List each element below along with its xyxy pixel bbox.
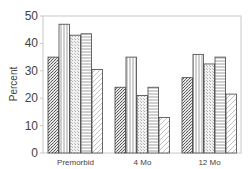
bar	[204, 64, 215, 153]
y-tick-label: 30	[25, 64, 39, 78]
y-axis-label: Percent	[8, 67, 19, 102]
y-axis: 01020304050	[25, 9, 43, 160]
x-category-label: 4 Mo	[134, 158, 152, 167]
x-category-label: 12 Mo	[198, 158, 221, 167]
bar	[59, 24, 70, 153]
bar	[193, 54, 204, 153]
bar	[126, 57, 137, 153]
bar	[92, 69, 103, 153]
y-tick-label: 50	[25, 9, 39, 23]
bar-group	[48, 24, 103, 153]
y-tick-label: 20	[25, 91, 39, 105]
y-tick-label: 10	[25, 119, 39, 133]
x-axis: Premorbid4 Mo12 Mo	[57, 158, 221, 167]
bar-group	[182, 54, 237, 153]
bar	[48, 57, 59, 153]
bar	[182, 78, 193, 153]
bar	[159, 117, 170, 153]
bar-group	[115, 57, 170, 153]
x-category-label: Premorbid	[57, 158, 94, 167]
y-tick-label: 40	[25, 36, 39, 50]
bar	[115, 87, 126, 153]
bar	[215, 57, 226, 153]
y-tick-label: 0	[31, 146, 38, 160]
bar	[70, 35, 81, 153]
bars	[48, 24, 237, 153]
bar	[226, 94, 237, 153]
bar-chart: 01020304050 Premorbid4 Mo12 Mo Percent	[0, 0, 252, 169]
bar	[81, 34, 92, 153]
bar	[148, 87, 159, 153]
bar	[137, 95, 148, 153]
